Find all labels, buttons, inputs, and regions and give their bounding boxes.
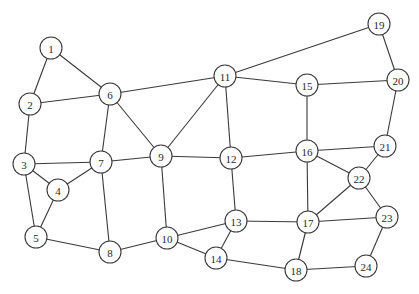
node-4: 4 — [47, 179, 69, 201]
node-15: 15 — [296, 74, 318, 96]
node-21: 21 — [374, 135, 396, 157]
node-label: 11 — [220, 71, 231, 83]
node-label: 24 — [361, 261, 373, 273]
edge-6-9 — [110, 94, 161, 156]
node-23: 23 — [376, 206, 398, 228]
node-8: 8 — [99, 241, 121, 263]
node-11: 11 — [214, 65, 236, 87]
node-label: 6 — [107, 89, 113, 101]
node-label: 17 — [303, 217, 315, 229]
node-label: 2 — [27, 99, 33, 111]
edge-17-23 — [308, 217, 387, 222]
node-label: 15 — [302, 80, 314, 92]
node-label: 10 — [162, 233, 174, 245]
node-label: 13 — [231, 216, 243, 228]
node-2: 2 — [19, 93, 41, 115]
node-10: 10 — [156, 227, 178, 249]
edge-15-20 — [307, 80, 398, 85]
node-label: 4 — [55, 185, 61, 197]
node-18: 18 — [285, 259, 307, 281]
edge-2-6 — [30, 94, 110, 104]
node-label: 9 — [158, 151, 164, 163]
edge-16-21 — [307, 146, 385, 151]
node-label: 1 — [48, 43, 54, 55]
node-label: 23 — [382, 212, 394, 224]
edge-11-19 — [225, 24, 379, 76]
node-label: 7 — [98, 157, 104, 169]
node-13: 13 — [225, 210, 247, 232]
edge-6-11 — [110, 76, 225, 94]
edge-14-18 — [216, 258, 296, 270]
node-12: 12 — [220, 147, 242, 169]
edge-7-8 — [101, 162, 110, 252]
node-label: 19 — [374, 19, 386, 31]
node-14: 14 — [205, 247, 227, 269]
node-label: 3 — [21, 159, 27, 171]
node-19: 19 — [368, 13, 390, 35]
node-layer: 123456789101112131415161718192021222324 — [13, 13, 409, 281]
node-5: 5 — [25, 226, 47, 248]
node-label: 12 — [226, 153, 237, 165]
node-16: 16 — [296, 140, 318, 162]
node-3: 3 — [13, 153, 35, 175]
node-label: 21 — [380, 141, 391, 153]
node-label: 8 — [107, 247, 113, 259]
node-label: 5 — [33, 232, 39, 244]
node-label: 16 — [302, 146, 314, 158]
node-17: 17 — [297, 211, 319, 233]
node-1: 1 — [40, 37, 62, 59]
node-9: 9 — [150, 145, 172, 167]
node-6: 6 — [99, 83, 121, 105]
edge-9-10 — [161, 156, 167, 238]
node-label: 18 — [291, 265, 303, 277]
edge-9-11 — [161, 76, 225, 156]
node-7: 7 — [90, 151, 112, 173]
node-label: 20 — [393, 75, 405, 87]
graph-diagram: 123456789101112131415161718192021222324 — [0, 0, 419, 294]
node-label: 14 — [211, 253, 223, 265]
edge-11-15 — [225, 76, 307, 85]
edge-3-7 — [24, 162, 101, 164]
node-22: 22 — [348, 167, 370, 189]
node-24: 24 — [355, 255, 377, 277]
node-20: 20 — [387, 69, 409, 91]
edge-11-12 — [225, 76, 231, 158]
node-label: 22 — [354, 173, 365, 185]
edge-layer — [24, 24, 398, 270]
